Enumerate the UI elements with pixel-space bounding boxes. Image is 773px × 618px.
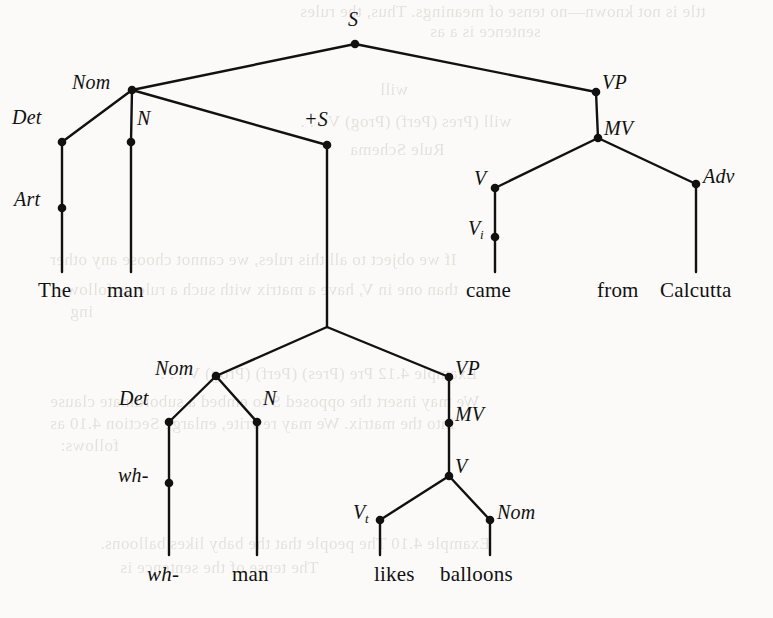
terminal-word: man bbox=[107, 278, 144, 303]
terminal-word: man bbox=[232, 562, 269, 587]
figure-page: ttle is not known—no tense of meanings. … bbox=[0, 0, 773, 618]
node-label-text: N bbox=[137, 107, 151, 129]
terminal-word: wh- bbox=[147, 562, 179, 587]
node-label-v-emb: V bbox=[455, 455, 467, 478]
node-label-text: V bbox=[455, 455, 467, 477]
tree-node-dot bbox=[376, 516, 385, 525]
node-label-nom-obj: Nom bbox=[497, 501, 535, 524]
node-label-wh-det: wh- bbox=[118, 464, 149, 487]
tree-branch bbox=[355, 44, 596, 92]
tree-node-dot bbox=[491, 184, 500, 193]
node-label-mv-emb: MV bbox=[455, 403, 484, 426]
node-label-subscript: t bbox=[365, 511, 369, 526]
node-label-text: Art bbox=[14, 188, 40, 210]
tree-branch bbox=[131, 90, 132, 142]
node-label-text: MV bbox=[455, 403, 484, 425]
tree-node-dot bbox=[253, 418, 262, 427]
tree-node-dot bbox=[58, 138, 67, 147]
tree-node-dot bbox=[491, 233, 500, 242]
tree-node-dot bbox=[445, 373, 454, 382]
node-label-vi-top: Vi bbox=[468, 217, 484, 243]
tree-node-dot bbox=[165, 418, 174, 427]
node-label-v-top: V bbox=[474, 167, 486, 190]
node-label-nom-emb: Nom bbox=[155, 357, 193, 380]
node-label-det-top: Det bbox=[12, 106, 41, 129]
node-label-plus-s: +S bbox=[304, 108, 328, 131]
tree-node-dot bbox=[128, 86, 137, 95]
tree-node-dot bbox=[323, 141, 332, 150]
terminal-word: Calcutta bbox=[660, 278, 732, 303]
tree-branch bbox=[596, 92, 598, 138]
node-label-text: VP bbox=[602, 71, 627, 93]
tree-branch bbox=[132, 90, 327, 145]
tree-node-dot bbox=[692, 180, 701, 189]
node-label-text: MV bbox=[604, 117, 633, 139]
tree-branch bbox=[216, 376, 257, 422]
node-label-text: N bbox=[263, 387, 277, 409]
node-label-s-top: S bbox=[348, 8, 358, 31]
node-label-n-top: N bbox=[137, 107, 151, 130]
tree-node-dot bbox=[351, 40, 360, 49]
node-label-text: S bbox=[348, 8, 358, 30]
tree-branch bbox=[327, 327, 449, 377]
tree-branch bbox=[169, 376, 216, 422]
tree-branch bbox=[495, 138, 598, 188]
tree-branch bbox=[449, 476, 490, 520]
terminal-word: likes bbox=[374, 562, 415, 587]
tree-node-dot bbox=[58, 204, 67, 213]
node-label-text: Det bbox=[119, 387, 148, 409]
terminal-word: balloons bbox=[440, 562, 513, 587]
node-label-nom-top: Nom bbox=[72, 71, 110, 94]
node-label-text: V bbox=[474, 167, 486, 189]
node-label-mv-top: MV bbox=[604, 117, 633, 140]
node-label-vp-emb: VP bbox=[455, 357, 480, 380]
node-label-det-emb: Det bbox=[119, 387, 148, 410]
node-label-subscript: i bbox=[480, 227, 484, 242]
tree-branch bbox=[132, 44, 355, 90]
tree-branch bbox=[380, 476, 449, 520]
node-label-text: VP bbox=[455, 357, 480, 379]
node-label-n-emb: N bbox=[263, 387, 277, 410]
node-label-text: wh- bbox=[118, 464, 149, 486]
tree-node-dot bbox=[127, 138, 136, 147]
node-label-text: V bbox=[468, 217, 480, 239]
tree-node-dot bbox=[594, 134, 603, 143]
tree-node-dot bbox=[165, 479, 174, 488]
node-label-text: Det bbox=[12, 106, 41, 128]
node-label-text: Nom bbox=[72, 71, 110, 93]
node-label-text: Nom bbox=[155, 357, 193, 379]
tree-node-dot bbox=[592, 88, 601, 97]
node-label-text: Nom bbox=[497, 501, 535, 523]
syntax-tree-graph bbox=[0, 0, 773, 618]
tree-branch bbox=[598, 138, 696, 184]
tree-node-dot bbox=[445, 472, 454, 481]
terminal-word: The bbox=[38, 278, 71, 303]
node-label-adv-top: Adv bbox=[703, 165, 735, 188]
tree-branch bbox=[216, 327, 327, 376]
tree-node-dot bbox=[486, 516, 495, 525]
tree-node-dot bbox=[445, 419, 454, 428]
terminal-word: came bbox=[466, 278, 511, 303]
node-label-vt-emb: Vt bbox=[353, 501, 369, 527]
tree-branch bbox=[62, 90, 132, 142]
node-label-text: V bbox=[353, 501, 365, 523]
node-label-art-top: Art bbox=[14, 188, 40, 211]
tree-node-dot bbox=[212, 372, 221, 381]
node-label-vp-top: VP bbox=[602, 71, 627, 94]
node-label-text: Adv bbox=[703, 165, 735, 187]
node-label-text: +S bbox=[304, 108, 328, 130]
terminal-word: from bbox=[597, 278, 639, 303]
